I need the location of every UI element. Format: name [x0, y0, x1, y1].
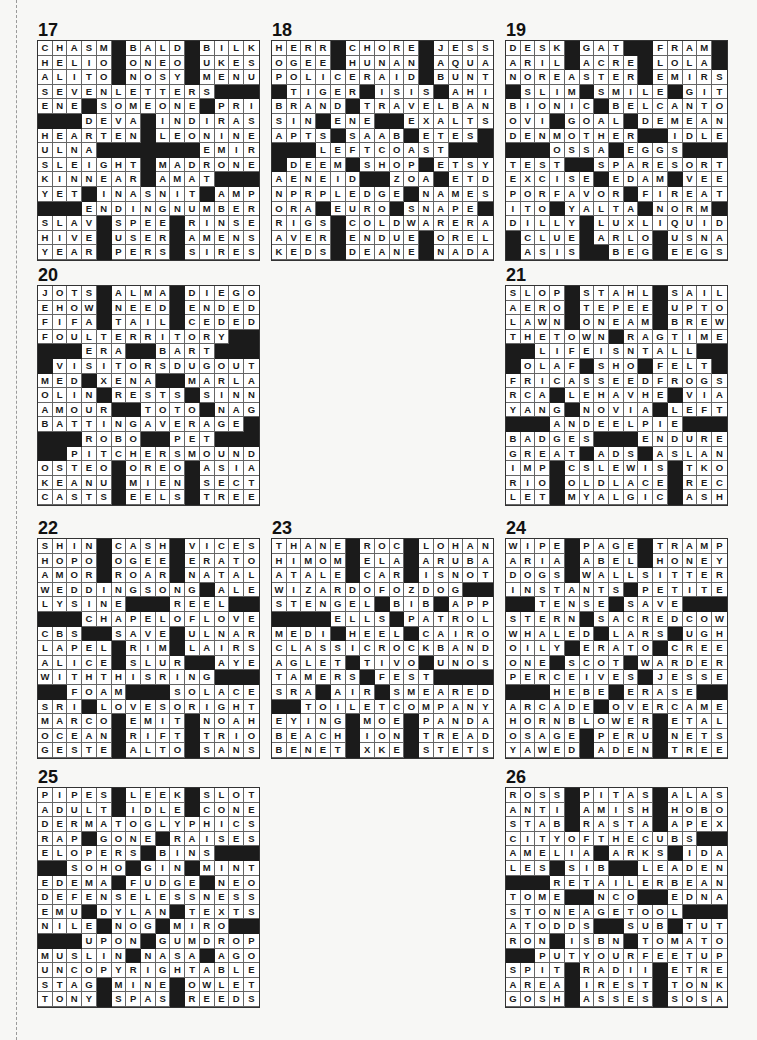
letter-cell: I [653, 187, 668, 202]
letter-cell: N [67, 143, 82, 158]
letter-cell: A [638, 172, 653, 187]
letter-cell: A [112, 344, 127, 359]
letter-cell: T [156, 85, 171, 100]
letter-cell: G [683, 85, 698, 100]
letter-cell: O [580, 114, 595, 129]
letter-cell: S [360, 158, 375, 173]
black-square [346, 714, 361, 729]
letter-cell: R [683, 476, 698, 491]
letter-cell: N [126, 934, 141, 949]
letter-cell: S [244, 817, 259, 832]
letter-cell: A [506, 978, 521, 993]
letter-cell: T [200, 432, 215, 447]
letter-cell: R [82, 432, 97, 447]
letter-cell: H [638, 803, 653, 818]
letter-cell: T [712, 403, 727, 418]
letter-cell: A [200, 568, 215, 583]
black-square [200, 656, 215, 671]
letter-cell: A [550, 447, 565, 462]
black-square [375, 114, 390, 129]
letter-cell: T [67, 187, 82, 202]
letter-cell: E [316, 172, 331, 187]
letter-cell: A [67, 216, 82, 231]
letter-cell: A [38, 403, 53, 418]
black-square [200, 187, 215, 202]
letter-cell: C [215, 539, 230, 554]
letter-cell: S [565, 172, 580, 187]
letter-cell: E [697, 568, 712, 583]
letter-cell: P [683, 817, 698, 832]
letter-cell: T [244, 476, 259, 491]
black-square [229, 172, 244, 187]
letter-cell: S [594, 85, 609, 100]
letter-cell: D [565, 700, 580, 715]
letter-cell: E [82, 919, 97, 934]
letter-cell: O [215, 919, 230, 934]
letter-cell: S [141, 187, 156, 202]
letter-cell: N [200, 129, 215, 144]
letter-cell: E [97, 656, 112, 671]
letter-cell: I [521, 832, 536, 847]
letter-cell: A [653, 344, 668, 359]
letter-cell: A [697, 56, 712, 71]
letter-cell: E [229, 490, 244, 505]
letter-cell: A [375, 568, 390, 583]
letter-cell: O [185, 129, 200, 144]
letter-cell: N [449, 714, 464, 729]
letter-cell: G [653, 143, 668, 158]
letter-cell: A [506, 301, 521, 316]
letter-cell: P [67, 788, 82, 803]
letter-cell: M [668, 70, 683, 85]
letter-cell: A [97, 685, 112, 700]
letter-cell: M [53, 403, 68, 418]
letter-cell: H [38, 129, 53, 144]
letter-cell: O [521, 187, 536, 202]
letter-cell: I [697, 85, 712, 100]
letter-cell: E [244, 129, 259, 144]
letter-cell: A [580, 202, 595, 217]
black-square [419, 41, 434, 56]
letter-cell: O [360, 216, 375, 231]
letter-cell: R [697, 70, 712, 85]
letter-cell: E [38, 876, 53, 891]
letter-cell: T [580, 129, 595, 144]
crossword-solution-21: 21SLOPSTAHLSAILAEROTEPEEUPTOLAWNONEAMBRE… [505, 266, 728, 506]
letter-cell: E [521, 301, 536, 316]
letter-cell: T [683, 714, 698, 729]
letter-cell: P [506, 670, 521, 685]
black-square [316, 685, 331, 700]
letter-cell: E [404, 245, 419, 260]
crossword-solution-20: 20JOTSALMADIEGOEHOWNEEDENDEDFIFATAILCEDE… [37, 266, 260, 506]
letter-cell: L [346, 612, 361, 627]
letter-cell: C [580, 99, 595, 114]
letter-cell: E [360, 245, 375, 260]
letter-cell: E [712, 700, 727, 715]
letter-cell: E [97, 172, 112, 187]
letter-cell: H [653, 554, 668, 569]
letter-cell: T [697, 934, 712, 949]
letter-cell: I [67, 359, 82, 374]
letter-cell: A [229, 627, 244, 642]
letter-cell: X [712, 817, 727, 832]
letter-cell: F [67, 685, 82, 700]
letter-cell: M [185, 934, 200, 949]
letter-cell: D [156, 301, 171, 316]
letter-cell: R [683, 315, 698, 330]
letter-cell: S [594, 992, 609, 1007]
black-square [67, 432, 82, 447]
letter-cell: L [82, 330, 97, 345]
letter-cell: I [535, 963, 550, 978]
crossword-grid: ROSSPITASALASANTIAMISHHOBOSTABRASTAAPEXC… [505, 787, 728, 1008]
letter-cell: T [170, 403, 185, 418]
letter-cell: O [126, 817, 141, 832]
letter-cell: C [624, 612, 639, 627]
black-square [580, 216, 595, 231]
letter-cell: L [301, 656, 316, 671]
letter-cell: I [624, 963, 639, 978]
letter-cell: I [97, 583, 112, 598]
letter-cell: R [712, 656, 727, 671]
black-square [653, 301, 668, 316]
letter-cell: L [82, 949, 97, 964]
letter-cell: E [53, 187, 68, 202]
letter-cell: R [126, 729, 141, 744]
